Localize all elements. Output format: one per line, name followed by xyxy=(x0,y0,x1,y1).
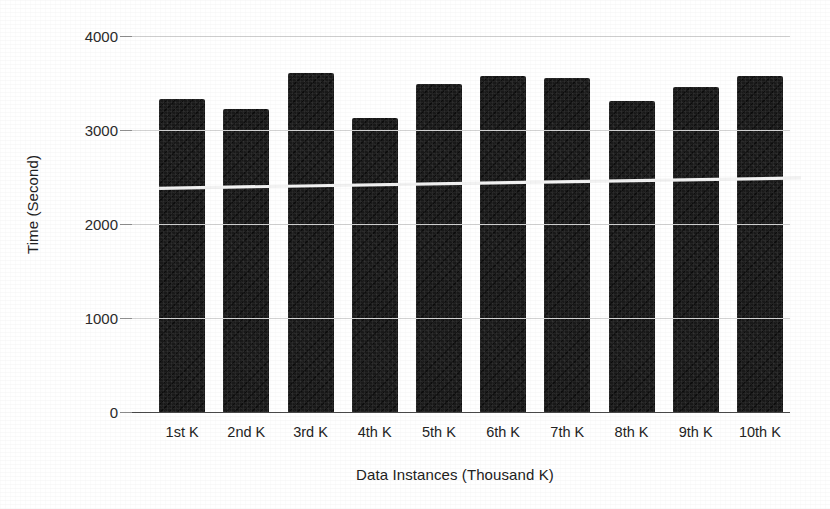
y-tick-mark xyxy=(120,36,132,37)
plot-area: 01000200030004000 xyxy=(132,36,790,416)
gridline-4000 xyxy=(132,36,790,37)
axis-baseline xyxy=(132,412,790,413)
bar xyxy=(609,101,655,412)
bar xyxy=(352,118,398,412)
gridline-3000 xyxy=(132,130,790,131)
bar xyxy=(223,109,269,412)
y-tick-label: 1000 xyxy=(85,310,118,327)
y-tick-mark xyxy=(120,130,132,131)
bar xyxy=(480,76,526,412)
y-tick-mark xyxy=(120,412,132,413)
y-tick-mark xyxy=(120,224,132,225)
y-tick-label: 4000 xyxy=(85,28,118,45)
x-tick-label: 3rd K xyxy=(293,424,328,440)
x-tick-label: 5th K xyxy=(422,424,456,440)
x-tick-label: 2nd K xyxy=(227,424,265,440)
y-axis-title: Time (Second) xyxy=(24,125,41,285)
bar xyxy=(416,84,462,412)
y-tick-label: 0 xyxy=(110,404,118,421)
y-tick-mark xyxy=(120,318,132,319)
y-tick-label: 2000 xyxy=(85,216,118,233)
bar xyxy=(673,87,719,412)
bar xyxy=(288,73,334,412)
bar xyxy=(737,76,783,412)
gridline-1000 xyxy=(132,318,790,319)
x-tick-label: 6th K xyxy=(486,424,520,440)
bar xyxy=(544,78,590,412)
gridline-2000 xyxy=(132,224,790,225)
x-axis-title: Data Instances (Thousand K) xyxy=(110,466,800,483)
bar xyxy=(159,99,205,412)
x-tick-label: 8th K xyxy=(615,424,649,440)
x-tick-label: 4th K xyxy=(358,424,392,440)
x-tick-label: 10th K xyxy=(739,424,781,440)
y-tick-label: 3000 xyxy=(85,122,118,139)
x-tick-label: 7th K xyxy=(550,424,584,440)
chart-figure: Time (Second) 01000200030004000 Data Ins… xyxy=(0,0,830,509)
x-tick-label: 9th K xyxy=(679,424,713,440)
x-tick-label: 1st K xyxy=(166,424,199,440)
